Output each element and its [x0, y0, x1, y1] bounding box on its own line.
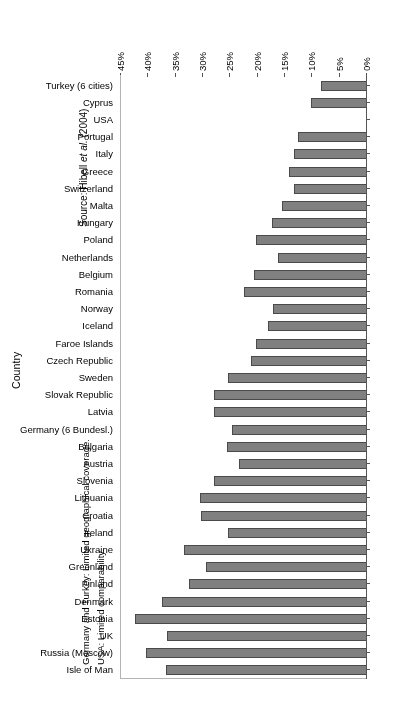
category-tick-mark: [367, 222, 370, 223]
bar: [227, 442, 367, 452]
x-axis-tick-mark: [229, 73, 230, 77]
x-tick-label: 0%: [362, 57, 373, 71]
bar: [256, 235, 367, 245]
bar: [272, 218, 367, 228]
bar: [214, 476, 367, 486]
bar-row: Lithuania: [121, 490, 367, 507]
bar: [282, 201, 367, 211]
bar-row: Norway: [121, 301, 367, 318]
x-axis-tick-mark: [311, 73, 312, 77]
category-label: Sweden: [79, 373, 113, 384]
category-label: Malta: [90, 201, 113, 212]
bar-row: Ireland: [121, 524, 367, 541]
bar-row: Greenland: [121, 559, 367, 576]
x-tick-label: 40%: [143, 52, 154, 71]
category-tick-mark: [367, 239, 370, 240]
bar: [200, 493, 367, 503]
x-tick-label: 30%: [198, 52, 209, 71]
category-tick-mark: [367, 583, 370, 584]
bar: [294, 184, 367, 194]
category-axis-line: [366, 77, 367, 679]
category-label: USA: [93, 115, 113, 126]
bar-row: Isle of Man: [121, 662, 367, 679]
bar-row: Russia (Moscow): [121, 645, 367, 662]
bar: [214, 390, 367, 400]
bar: [273, 304, 367, 314]
category-tick-mark: [367, 153, 370, 154]
x-axis-title: Percentage of boys: [367, 23, 416, 35]
bar-row: UK: [121, 627, 367, 644]
bar: [228, 528, 367, 538]
x-axis-tick-mark: [175, 73, 176, 77]
bar-row: Poland: [121, 232, 367, 249]
bar-row: Netherlands: [121, 249, 367, 266]
bar: [298, 132, 367, 142]
category-label: Czech Republic: [46, 355, 113, 366]
category-label: Turkey (6 cities): [46, 80, 113, 91]
category-tick-mark: [367, 652, 370, 653]
category-tick-mark: [367, 429, 370, 430]
bar: [232, 425, 367, 435]
category-label: Germany (6 Bundesl.): [20, 424, 113, 435]
bar: [214, 407, 367, 417]
category-tick-mark: [367, 601, 370, 602]
bar-row: Sweden: [121, 369, 367, 386]
category-tick-mark: [367, 188, 370, 189]
x-tick-label: 45%: [116, 52, 127, 71]
bar: [254, 270, 367, 280]
bar-row: Switzerland: [121, 180, 367, 197]
x-tick-label: 20%: [252, 52, 263, 71]
note-line-1: Germany and Turkey: Limited geographical…: [78, 651, 93, 665]
category-tick-mark: [367, 532, 370, 533]
bar: [251, 356, 367, 366]
category-tick-mark: [367, 446, 370, 447]
category-label: Isle of Man: [67, 665, 113, 676]
category-tick-mark: [367, 669, 370, 670]
bar-row: Latvia: [121, 404, 367, 421]
bar-row: Denmark: [121, 593, 367, 610]
bar: [135, 614, 367, 624]
bar-row: Czech Republic: [121, 352, 367, 369]
category-label: Romania: [75, 287, 113, 298]
bar: [201, 511, 367, 521]
bar-row: Italy: [121, 146, 367, 163]
source-prefix: Source: Hibell: [78, 162, 89, 227]
bar: [289, 167, 367, 177]
bar: [206, 562, 367, 572]
category-tick-mark: [367, 85, 370, 86]
bar: [228, 373, 367, 383]
bar-row: Faroe Islands: [121, 335, 367, 352]
category-tick-mark: [367, 566, 370, 567]
category-tick-mark: [367, 308, 370, 309]
category-tick-mark: [367, 343, 370, 344]
bar-row: Iceland: [121, 318, 367, 335]
x-axis-tick-mark: [257, 73, 258, 77]
category-tick-mark: [367, 171, 370, 172]
bar-row: USA: [121, 111, 367, 128]
category-tick-mark: [367, 480, 370, 481]
category-tick-mark: [367, 205, 370, 206]
category-label: Belgium: [79, 269, 113, 280]
category-label: Italy: [96, 149, 113, 160]
bar: [239, 459, 367, 469]
x-axis-tick-mark: [147, 73, 148, 77]
plot-frame-left-rule: [120, 75, 121, 679]
category-label: Latvia: [88, 407, 113, 418]
bar: [162, 597, 367, 607]
bar: [268, 321, 367, 331]
category-tick-mark: [367, 377, 370, 378]
bar-row: Greece: [121, 163, 367, 180]
category-tick-mark: [367, 411, 370, 412]
category-tick-mark: [367, 291, 370, 292]
source-italic: et al.: [78, 140, 89, 162]
bar: [256, 339, 367, 349]
bar: [146, 648, 367, 658]
bar: [311, 98, 367, 108]
x-axis-tick-labels: 0%5%10%15%20%25%30%35%40%45%: [121, 27, 367, 71]
category-tick-mark: [367, 463, 370, 464]
bar-row: Croatia: [121, 507, 367, 524]
category-label: Slovak Republic: [45, 390, 113, 401]
category-tick-mark: [367, 497, 370, 498]
source-note: Source: Hibell et al. (2004): [78, 217, 89, 227]
x-axis-tick-mark: [339, 73, 340, 77]
